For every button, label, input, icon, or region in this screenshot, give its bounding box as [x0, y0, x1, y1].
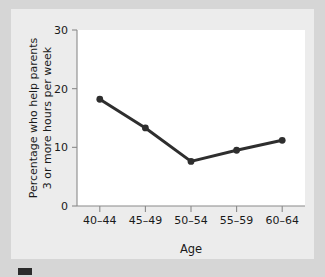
x-tick-label: 55–59 — [220, 214, 254, 227]
x-tick-label: 50–54 — [174, 214, 208, 227]
x-tick-label: 45–49 — [129, 214, 163, 227]
data-point — [233, 147, 240, 154]
data-point — [188, 158, 195, 165]
y-tick-label: 0 — [61, 200, 68, 213]
figure-container: 0102030 40–4445–4950–5455–5960–64 Age Pe… — [0, 0, 325, 277]
series-line — [100, 99, 282, 161]
x-axis-title: Age — [180, 242, 202, 256]
y-tick-label: 10 — [54, 141, 68, 154]
data-point — [96, 96, 103, 103]
x-axis-ticks: 40–4445–4950–5455–5960–64 — [83, 206, 299, 227]
y-tick-label: 30 — [54, 24, 68, 37]
y-axis-ticks: 0102030 — [54, 24, 77, 213]
x-tick-label: 60–64 — [265, 214, 299, 227]
y-tick-label: 20 — [54, 83, 68, 96]
axes — [77, 30, 305, 206]
figure-corner-marker — [18, 268, 32, 275]
y-axis-title-line-2: 3 or more hours per week — [41, 46, 54, 189]
data-point — [279, 137, 286, 144]
line-chart: 0102030 40–4445–4950–5455–5960–64 Age Pe… — [0, 0, 325, 277]
x-tick-label: 40–44 — [83, 214, 117, 227]
data-point — [142, 125, 149, 132]
series-markers — [96, 96, 285, 165]
y-axis-title-line-1: Percentage who help parents — [27, 37, 40, 198]
